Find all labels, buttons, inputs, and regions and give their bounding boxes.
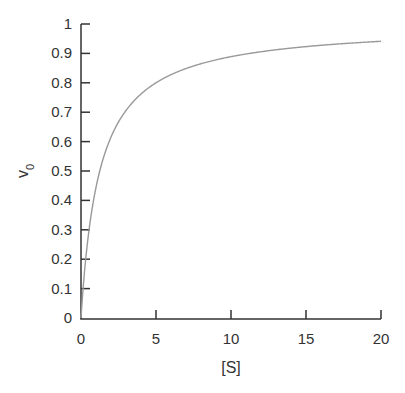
axes (80, 24, 381, 319)
y-tick-label: 0.7 (51, 103, 72, 120)
x-axis-title: [S] (221, 359, 241, 376)
axis-labels: 00.10.20.30.40.50.60.70.80.9105101520[S]… (14, 15, 389, 376)
y-tick-label: 0.8 (51, 74, 72, 91)
y-tick-label: 0.4 (51, 191, 72, 208)
y-tick-label: 1 (64, 15, 72, 32)
x-tick-label: 10 (223, 330, 240, 347)
x-tick-label: 20 (373, 330, 390, 347)
x-tick-label: 5 (152, 330, 160, 347)
data-series (81, 41, 381, 318)
x-tick-label: 15 (298, 330, 315, 347)
y-tick-label: 0.1 (51, 280, 72, 297)
y-tick-label: 0.3 (51, 221, 72, 238)
x-tick-label: 0 (77, 330, 85, 347)
y-tick-label: 0 (64, 309, 72, 326)
mm-curve (81, 41, 381, 318)
y-tick-label: 0.6 (51, 133, 72, 150)
y-tick-label: 0.9 (51, 44, 72, 61)
y-tick-label: 0.2 (51, 250, 72, 267)
y-tick-label: 0.5 (51, 162, 72, 179)
michaelis-menten-chart: 00.10.20.30.40.50.60.70.80.9105101520[S]… (0, 0, 405, 393)
y-axis-title: v0 (14, 164, 36, 178)
